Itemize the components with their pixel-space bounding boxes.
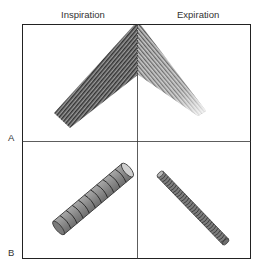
inspiration-cylinder	[51, 161, 136, 236]
expiration-cylinder	[156, 170, 230, 246]
diagram-canvas	[0, 0, 257, 266]
expiration-wedge	[137, 25, 206, 116]
inspiration-wedge	[54, 25, 141, 128]
